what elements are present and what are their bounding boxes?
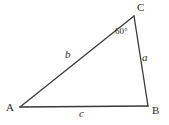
angle-label-c: 60° [115,27,128,36]
vertex-label-a: A [6,102,14,113]
vertex-label-b: B [152,105,159,116]
triangle-diagram: A B C a b c 60° [0,0,169,125]
triangle-side-c-line [20,106,148,107]
side-label-c: c [79,108,84,119]
side-label-b: b [65,49,71,60]
side-label-a: a [142,52,148,63]
vertex-label-c: C [137,2,144,13]
